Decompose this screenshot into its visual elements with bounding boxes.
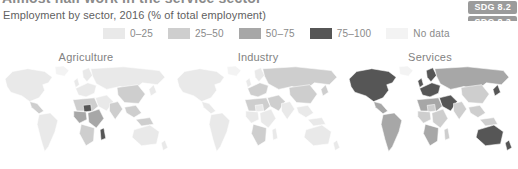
region-uk	[74, 78, 80, 87]
region-seasia	[469, 105, 486, 117]
legend-label-25-50: 25–50	[195, 28, 224, 39]
map-title-agriculture: Agriculture	[59, 51, 114, 63]
region-china	[289, 85, 317, 104]
page-title-cropped: Almost half work in the service sector	[2, 0, 518, 5]
region-india	[110, 102, 123, 120]
region-sahel	[255, 104, 263, 112]
legend-label-no-data: No data	[413, 28, 449, 39]
map-panel-agriculture: Agriculture	[0, 51, 172, 158]
region-nz	[161, 140, 168, 150]
legend-item-0-25: 0–25	[103, 28, 153, 39]
region-seasia	[297, 105, 314, 117]
legend-swatch-no-data	[386, 28, 408, 39]
sdg-badge-8-2: SDG 8.2	[468, 1, 517, 14]
region-madagascar	[100, 128, 106, 140]
region-greenland	[227, 66, 241, 76]
region-japan	[493, 85, 501, 96]
legend-label-0-25: 0–25	[130, 28, 153, 39]
region-safrica	[79, 124, 94, 146]
region-southamerica	[37, 113, 58, 152]
region-southamerica	[209, 113, 230, 152]
region-centralamerica	[374, 102, 388, 114]
region-australia	[304, 125, 331, 146]
region-indonesia	[480, 118, 498, 126]
region-madagascar	[272, 128, 278, 140]
region-uk	[418, 78, 424, 87]
region-greenland	[55, 66, 69, 76]
region-china	[461, 85, 489, 104]
world-map-services	[345, 64, 515, 158]
region-seasia	[125, 105, 142, 117]
legend-swatch-0-25	[103, 28, 125, 39]
region-japan	[149, 85, 157, 96]
map-title-services: Services	[408, 51, 452, 63]
map-panel-industry: Industry	[172, 51, 344, 158]
region-eafrica	[432, 109, 448, 128]
world-map-industry	[173, 64, 343, 158]
maps-row: Agriculture Industry Services	[0, 51, 518, 158]
region-eafrica	[260, 109, 276, 128]
legend-label-75-100: 75–100	[337, 28, 372, 39]
header: Almost half work in the service sector E…	[0, 0, 518, 21]
region-northamerica	[177, 69, 224, 102]
legend-label-50-75: 50–75	[266, 28, 295, 39]
region-centralamerica	[30, 102, 44, 114]
sdg-badge-8-3: SDG 8.3	[468, 16, 517, 21]
region-india	[282, 102, 295, 120]
region-wafrica	[74, 111, 87, 123]
legend-swatch-50-75	[239, 28, 261, 39]
region-wafrica	[246, 111, 259, 123]
chart-subtitle: Employment by sector, 2016 (% of total e…	[3, 9, 518, 21]
legend-item-25-50: 25–50	[168, 28, 224, 39]
region-indonesia	[308, 118, 326, 126]
region-greenland	[399, 66, 413, 76]
region-northamerica	[349, 69, 396, 102]
sdg-badges: SDG 8.2 SDG 8.3	[468, 1, 517, 21]
region-centralamerica	[202, 102, 216, 114]
legend-item-50-75: 50–75	[239, 28, 295, 39]
legend: 0–25 25–50 50–75 75–100 No data	[103, 28, 518, 39]
region-southamerica	[381, 113, 402, 152]
region-uk	[246, 78, 252, 87]
region-nz	[333, 140, 340, 150]
legend-item-no-data: No data	[386, 28, 449, 39]
region-sahel	[427, 104, 435, 112]
region-northamerica	[5, 69, 52, 102]
region-china	[117, 85, 145, 104]
region-sahel	[83, 104, 91, 112]
region-australia	[476, 125, 503, 146]
region-safrica	[423, 124, 438, 146]
region-wafrica	[418, 111, 431, 123]
region-nz	[505, 140, 512, 150]
legend-swatch-25-50	[168, 28, 190, 39]
region-madagascar	[444, 128, 450, 140]
map-title-industry: Industry	[238, 51, 279, 63]
world-map-agriculture	[1, 64, 171, 158]
region-australia	[132, 125, 159, 146]
region-japan	[321, 85, 329, 96]
legend-item-75-100: 75–100	[310, 28, 372, 39]
map-panel-services: Services	[344, 51, 516, 158]
region-india	[454, 102, 467, 120]
legend-swatch-75-100	[310, 28, 332, 39]
region-safrica	[251, 124, 266, 146]
region-indonesia	[136, 118, 154, 126]
region-eafrica	[88, 109, 104, 128]
